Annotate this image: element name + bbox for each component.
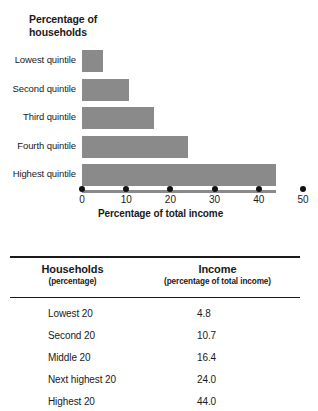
axis-tick-label: 50 [288,194,318,206]
axis-tick-dot [300,186,306,192]
table-header-rule [10,297,300,298]
axis-tick-dot [79,186,85,192]
cell-income: 16.4 [135,352,300,363]
axis-tick-label: 0 [67,194,97,206]
bar-row: Third quintile [0,107,317,129]
bar-rect [82,50,103,72]
bar-rect [82,136,188,158]
bar-rect [82,164,276,186]
axis-baseline [82,190,276,193]
table-row: Lowest 204.8 [10,302,300,324]
table-row: Next highest 2024.0 [10,368,300,390]
income-distribution-table: Households (percentage) Income (percenta… [0,252,317,397]
bar-row: Second quintile [0,79,317,101]
cell-households: Middle 20 [10,352,135,363]
bar-label: Highest quintile [0,168,76,179]
cell-income: 24.0 [135,374,300,385]
axis-tick-label: 20 [155,194,185,206]
bar-row: Highest quintile [0,164,317,186]
column-title-households: Households [10,263,135,276]
axis-tick-label: 30 [200,194,230,206]
axis-tick-label: 10 [111,194,141,206]
chart-title: Percentage of households [29,13,97,38]
cell-households: Next highest 20 [10,374,135,385]
bar-label: Fourth quintile [0,140,76,151]
cell-income: 4.8 [135,308,300,319]
cell-income: 10.7 [135,330,300,341]
cell-income: 44.0 [135,396,300,407]
table-column-header-income: Income (percentage of total income) [135,263,300,287]
bar-label: Third quintile [0,111,76,122]
column-title-income: Income [135,263,300,276]
bar-row: Lowest quintile [0,50,317,72]
axis-title-text: Percentage of total income [94,208,223,219]
axis-tick-dot [256,186,262,192]
bar-chart-panel: Percentage of households Lowest quintile… [0,0,317,232]
cell-households: Lowest 20 [10,308,135,319]
table-body: Lowest 204.8Second 2010.7Middle 2016.4Ne… [10,302,300,411]
axis-tick-label: 40 [244,194,274,206]
cell-households: Highest 20 [10,396,135,407]
axis-tick-dot [212,186,218,192]
column-subtitle-income: (percentage of total income) [135,276,300,287]
bar-rect [82,107,154,129]
bar-rect [82,79,129,101]
bar-label: Second quintile [0,83,76,94]
table-column-header-households: Households (percentage) [10,263,135,287]
bar-row: Fourth quintile [0,136,317,158]
axis-title: Percentage of total income [0,208,317,219]
table-row: Middle 2016.4 [10,346,300,368]
table-top-rule [10,256,300,258]
table-header-row: Households (percentage) Income (percenta… [10,263,300,287]
table-row: Highest 2044.0 [10,390,300,411]
table-row: Second 2010.7 [10,324,300,346]
cell-households: Second 20 [10,330,135,341]
bar-label: Lowest quintile [0,54,76,65]
column-subtitle-households: (percentage) [10,276,135,287]
chart-plot-area: Lowest quintileSecond quintileThird quin… [0,50,317,192]
